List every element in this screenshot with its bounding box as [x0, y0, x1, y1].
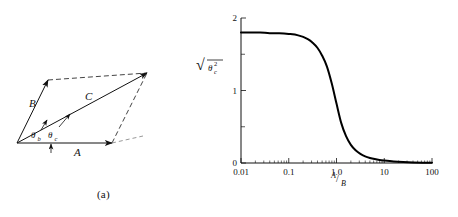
- dashed-edge-top: [48, 73, 147, 80]
- x-axis-title: A / B: [330, 171, 346, 188]
- y-axis-title-subscript: c: [214, 68, 217, 75]
- theta-b-label: θ: [31, 130, 36, 140]
- y-axis-title-theta: θ: [208, 63, 213, 73]
- panel-b-chart: 0.010.11.010100 012 √ θ c 2 A / B (b): [229, 0, 458, 217]
- x-axis-title-denominator: B: [341, 179, 346, 188]
- vector-c-arrow: [17, 73, 147, 143]
- dashed-edge-bottom-right: [112, 136, 143, 143]
- x-tick-label: 0.1: [283, 167, 294, 177]
- x-tick-label: 100: [425, 167, 439, 177]
- theta-b-subscript: b: [38, 135, 42, 142]
- y-tick-label: 0: [233, 158, 238, 168]
- theta-c-subscript: c: [55, 135, 58, 142]
- theta-c-leader: [59, 114, 70, 127]
- y-tick-label: 1: [233, 86, 238, 96]
- dashed-edge-right: [112, 73, 147, 143]
- vector-a-label: A: [73, 146, 81, 158]
- sqrt-radical-icon: √: [196, 56, 205, 73]
- y-tick-label: 2: [233, 13, 238, 23]
- x-tick-label: 0.01: [233, 167, 249, 177]
- x-tick-label: 10: [380, 167, 390, 177]
- vector-diagram-svg: B C A θ b θ c: [0, 0, 229, 217]
- x-axis-title-slash: /: [336, 173, 339, 184]
- data-curve: [241, 32, 432, 162]
- y-axis-title-superscript: 2: [214, 60, 217, 67]
- panel-a-vector-diagram: B C A θ b θ c (a): [0, 0, 229, 217]
- vector-b-label: B: [29, 97, 36, 109]
- panel-a-caption: (a): [97, 188, 110, 200]
- vector-c-label: C: [85, 90, 93, 102]
- chart-svg: 0.010.11.010100 012 √ θ c 2 A / B: [229, 0, 458, 217]
- y-axis-ticks: [241, 18, 246, 163]
- y-axis-tick-labels: 012: [233, 13, 238, 168]
- theta-c-label: θ: [48, 130, 53, 140]
- figure-page: B C A θ b θ c (a) 0.010.11.010100 012 √: [0, 0, 458, 217]
